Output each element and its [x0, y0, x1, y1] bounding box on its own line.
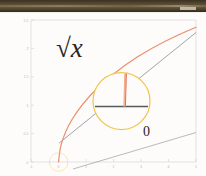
x-tick-label: 4 [168, 165, 170, 169]
top-edge-highlight [180, 7, 196, 10]
y-tick-label: 1.5 [24, 75, 29, 79]
y-tick-label: 2.5 [24, 19, 29, 23]
y-tick-label: 1 [27, 104, 29, 108]
x-tick-labels: -1 0 1 2 3 4 5 [29, 165, 197, 169]
top-edge-sheen [0, 5, 206, 7]
inset-zero-label: 0 [143, 125, 150, 139]
magnifier-inset-circle [93, 73, 150, 130]
screenshot-root: 2.5 2 1.5 1 0.5 0 [0, 0, 206, 176]
plot-svg: 2.5 2 1.5 1 0.5 0 [0, 13, 206, 176]
figure-plate: 2.5 2 1.5 1 0.5 0 [0, 13, 206, 176]
x-tick-label: 2 [113, 165, 115, 169]
function-label: √x [56, 35, 83, 62]
x-tick-label: 3 [140, 165, 142, 169]
y-tick-labels: 2.5 2 1.5 1 0.5 0 [24, 19, 29, 165]
photo-top-edge [0, 0, 206, 12]
y-tick-label: 2 [27, 47, 29, 51]
x-tick-label: 5 [195, 165, 197, 169]
y-tick-label: 0.5 [24, 132, 29, 136]
x-tick-label: -1 [29, 165, 32, 169]
x-tick-label: 0 [58, 165, 60, 169]
magnifier-inset [93, 73, 150, 130]
plot-figure: 2.5 2 1.5 1 0.5 0 [0, 13, 206, 176]
y-tick-label: 0 [27, 161, 29, 165]
